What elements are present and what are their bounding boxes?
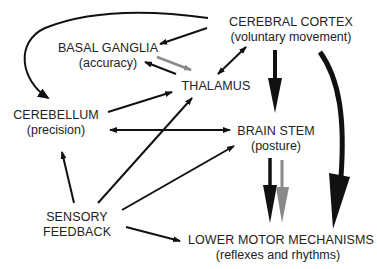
node-lower-motor: LOWER MOTOR MECHANISMS (reflexes and rhy… — [188, 233, 368, 263]
cerebellum-title: CEREBELLUM — [8, 108, 104, 123]
arrow-sensory-brainstem — [122, 146, 234, 210]
node-cerebral-cortex: CEREBRAL CORTEX (voluntary movement) — [216, 15, 366, 45]
cerebral-cortex-title: CEREBRAL CORTEX — [216, 15, 366, 30]
arrow-brainstem-lowermotor-black-head — [263, 185, 277, 223]
arrow-brainstem-lowermotor-gray-head — [276, 187, 289, 223]
cerebellum-subtitle: (precision) — [8, 123, 104, 138]
sensory-feedback-title: SENSORY — [40, 210, 114, 225]
cerebral-cortex-subtitle: (voluntary movement) — [216, 30, 366, 45]
node-sensory-feedback: SENSORY FEEDBACK — [40, 210, 114, 240]
arrow-cortex-brainstem-head — [268, 78, 282, 113]
arrow-cortex-lowermotor-head — [329, 173, 350, 229]
arrow-sensory-lowermotor — [126, 227, 180, 241]
arrow-cerebellum-thalamus — [108, 92, 172, 112]
node-cerebellum: CEREBELLUM (precision) — [8, 108, 104, 138]
basal-ganglia-title: BASAL GANGLIA — [48, 41, 168, 56]
node-basal-ganglia: BASAL GANGLIA (accuracy) — [48, 41, 168, 71]
brain-stem-title: BRAIN STEM — [236, 124, 316, 139]
arrow-cortex-lowermotor-shaft — [320, 52, 342, 177]
arrow-sensory-thalamus — [98, 98, 192, 203]
motor-control-diagram: CEREBRAL CORTEX (voluntary movement) BAS… — [0, 0, 377, 269]
lower-motor-subtitle: (reflexes and rhythms) — [188, 248, 368, 263]
arrow-thalamus-cortex — [218, 47, 246, 74]
lower-motor-title: LOWER MOTOR MECHANISMS — [188, 233, 368, 248]
node-thalamus: THALAMUS — [176, 79, 256, 94]
brain-stem-subtitle: (posture) — [236, 139, 316, 154]
sensory-feedback-title2: FEEDBACK — [40, 225, 114, 240]
thalamus-title: THALAMUS — [176, 79, 256, 94]
arrow-sensory-cerebellum — [62, 152, 74, 203]
node-brain-stem: BRAIN STEM (posture) — [236, 124, 316, 154]
basal-ganglia-subtitle: (accuracy) — [48, 56, 168, 71]
